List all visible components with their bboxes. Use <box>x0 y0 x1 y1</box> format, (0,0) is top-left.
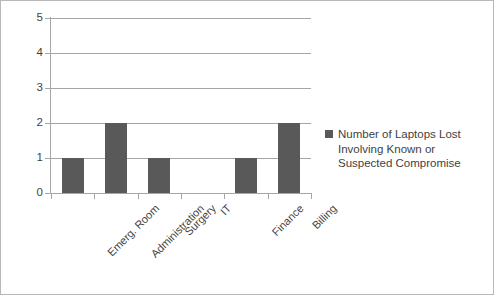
y-axis-tick-label: 1 <box>9 152 43 163</box>
x-axis-category-label: Finance <box>269 202 305 238</box>
bar[interactable] <box>278 123 300 193</box>
x-axis-tick <box>51 193 52 199</box>
legend-swatch-icon <box>325 130 333 138</box>
bar[interactable] <box>62 158 84 193</box>
y-axis-tick-label-text: 0 <box>17 187 43 198</box>
x-axis-tick <box>311 193 312 199</box>
legend-label-line: Suspected Compromise <box>338 156 461 171</box>
bar[interactable] <box>235 158 257 193</box>
y-axis-tick-label-text: 5 <box>17 12 43 23</box>
y-axis-tick-label: 0 <box>9 187 43 198</box>
plot-area <box>51 18 311 193</box>
chart-legend: Number of Laptops LostInvolving Known or… <box>325 127 485 171</box>
y-axis-tick-label-text: 4 <box>17 47 43 58</box>
bar[interactable] <box>148 158 170 193</box>
legend-label: Number of Laptops LostInvolving Known or… <box>338 127 461 171</box>
legend-label-line: Number of Laptops Lost <box>338 127 461 142</box>
x-axis-tick <box>268 193 269 199</box>
y-axis-tick-label-text: 1 <box>17 152 43 163</box>
y-axis-tick-label: 2 <box>9 117 43 128</box>
x-axis-tick <box>138 193 139 199</box>
x-axis-category-label: Billing <box>310 202 339 231</box>
y-axis-tick-label: 3 <box>9 82 43 93</box>
x-axis-tick <box>224 193 225 199</box>
chart-container: 012345 Emerg. RoomAdministrationSurgeryI… <box>0 0 494 295</box>
x-axis-tick <box>181 193 182 199</box>
x-axis-tick <box>94 193 95 199</box>
y-axis-tick-label-text: 3 <box>17 82 43 93</box>
y-axis-tick-label: 5 <box>9 12 43 23</box>
bar[interactable] <box>105 123 127 193</box>
x-axis-category-label: IT <box>218 202 233 217</box>
y-axis-tick-label: 4 <box>9 47 43 58</box>
y-axis-tick-label-text: 2 <box>17 117 43 128</box>
legend-label-line: Involving Known or <box>338 142 461 157</box>
